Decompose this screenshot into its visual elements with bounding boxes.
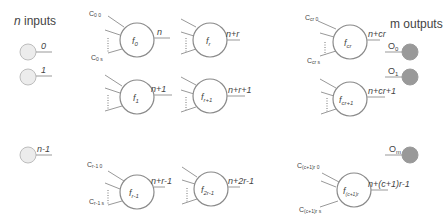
inputs-title: n inputs — [14, 14, 56, 28]
svg-text:n+r+1: n+r+1 — [228, 85, 252, 95]
svg-text:n+(c+1)r-1: n+(c+1)r-1 — [368, 179, 410, 189]
svg-text:Ccr s: Ccr s — [307, 57, 321, 65]
function-node-f-r-1: fr-1 n+r-1 Cr-1 0 Cr-1 s — [87, 161, 172, 209]
svg-text:C(c+1)r s: C(c+1)r s — [299, 206, 322, 214]
function-node-fcr: fcr n+cr Ccr 0 Ccr s — [305, 14, 387, 65]
function-node-fr+1: fr+1 n+r+1 — [181, 77, 252, 113]
svg-text:C(c+1)r 0: C(c+1)r 0 — [297, 162, 320, 170]
svg-text:C0 s: C0 s — [91, 54, 103, 62]
svg-text:n-1: n-1 — [37, 144, 50, 154]
input-node-0: 0 — [20, 41, 52, 60]
svg-text:O1: O1 — [388, 66, 399, 77]
function-node-fr: fr n+r — [181, 19, 240, 57]
svg-text:Om: Om — [389, 144, 401, 155]
function-node-f2r-1: f2r-1 n+2r-1 — [182, 167, 254, 206]
function-node-f1: f1 n+1 — [105, 75, 172, 114]
input-node-n-1: n-1 — [20, 144, 52, 163]
function-node-f0: f0 n C0 0 C0 s — [89, 10, 170, 62]
svg-text:n+cr+1: n+cr+1 — [368, 86, 396, 96]
function-node-fc+1r: f(c+1)r n+(c+1)r-1 C(c+1)r 0 C(c+1)r s — [297, 162, 410, 214]
svg-text:n: n — [157, 27, 162, 37]
svg-text:n+cr: n+cr — [368, 29, 387, 39]
svg-text:n+2r-1: n+2r-1 — [228, 176, 254, 186]
svg-text:n+r: n+r — [226, 29, 240, 39]
output-node-0: O0 — [385, 41, 418, 60]
svg-text:0: 0 — [41, 41, 46, 51]
svg-text:O0: O0 — [388, 41, 399, 52]
svg-text:Cr-1 s: Cr-1 s — [89, 198, 105, 206]
svg-text:n+r-1: n+r-1 — [151, 176, 172, 186]
input-node-1: 1 — [20, 65, 52, 85]
cgp-diagram: n inputs m outputs 0 1 n-1 f0 n C0 0 C0 … — [0, 0, 445, 224]
svg-text:1: 1 — [41, 65, 46, 75]
svg-text:Ccr 0: Ccr 0 — [305, 14, 319, 22]
function-node-fcr+1: fcr+1 n+cr+1 — [320, 79, 396, 116]
output-node-1: O1 — [385, 66, 418, 85]
output-node-m: Om — [385, 144, 418, 163]
outputs-title: m outputs — [390, 17, 443, 31]
svg-text:n+1: n+1 — [151, 84, 166, 94]
svg-text:C0 0: C0 0 — [89, 10, 101, 18]
svg-text:Cr-1 0: Cr-1 0 — [87, 161, 103, 169]
